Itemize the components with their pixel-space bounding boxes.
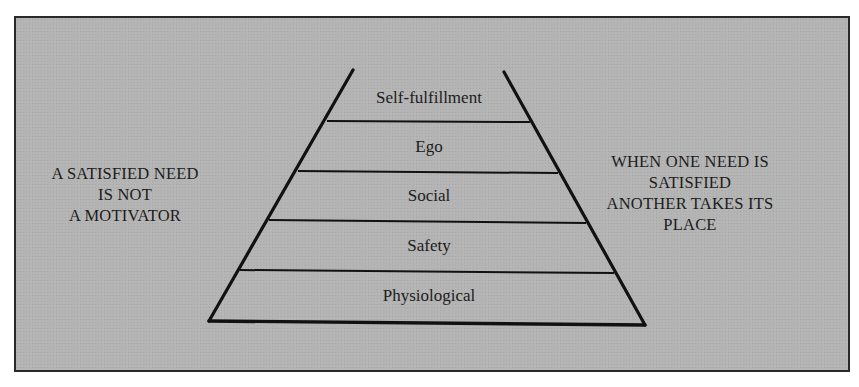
layer-label-physiological: Physiological — [329, 286, 529, 306]
layer-label-self-fulfillment: Self-fulfillment — [329, 88, 529, 108]
layer-label-social: Social — [329, 186, 529, 206]
pyramid-base — [209, 321, 645, 325]
layer-divider-1 — [327, 121, 530, 122]
left-annotation-line-2: IS NOT — [30, 184, 220, 205]
right-annotation-line-3: ANOTHER TAKES ITS — [590, 193, 790, 214]
right-annotation-line-4: PLACE — [590, 214, 790, 235]
layer-divider-3 — [269, 220, 586, 223]
left-annotation: A SATISFIED NEED IS NOT A MOTIVATOR — [30, 163, 220, 226]
layer-label-safety: Safety — [329, 236, 529, 256]
right-annotation: WHEN ONE NEED IS SATISFIED ANOTHER TAKES… — [590, 151, 790, 235]
left-annotation-line-1: A SATISFIED NEED — [30, 163, 220, 184]
layer-divider-4 — [240, 270, 614, 273]
layer-divider-2 — [298, 171, 558, 173]
right-annotation-line-1: WHEN ONE NEED IS — [590, 151, 790, 172]
left-annotation-line-3: A MOTIVATOR — [30, 205, 220, 226]
layer-label-ego: Ego — [329, 137, 529, 157]
right-annotation-line-2: SATISFIED — [590, 172, 790, 193]
